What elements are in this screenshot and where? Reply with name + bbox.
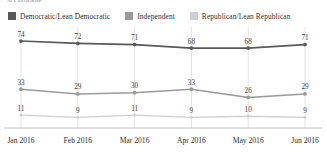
legend-label-independent: Independent bbox=[137, 12, 175, 21]
data-point[interactable] bbox=[246, 96, 250, 100]
legend-swatch-independent bbox=[125, 12, 133, 20]
data-point[interactable] bbox=[133, 91, 137, 95]
chart-title-strip: % Favorable bbox=[0, 0, 327, 7]
data-point[interactable] bbox=[303, 92, 307, 96]
data-point[interactable] bbox=[20, 114, 23, 117]
series-line-2 bbox=[21, 115, 305, 117]
data-label: 30 bbox=[131, 82, 139, 90]
x-axis-tick-label: May 2016 bbox=[233, 136, 264, 145]
series-line-1 bbox=[21, 89, 305, 97]
data-label: 11 bbox=[131, 105, 138, 113]
data-label: 10 bbox=[245, 106, 253, 114]
line-chart-svg: 747271686871332930332629119119109 bbox=[0, 24, 327, 134]
series-points-group bbox=[19, 39, 307, 119]
x-axis-tick-label: Jan 2016 bbox=[7, 136, 34, 145]
data-point[interactable] bbox=[190, 46, 194, 50]
data-label: 68 bbox=[188, 38, 196, 46]
data-label: 68 bbox=[245, 38, 253, 46]
data-label: 29 bbox=[74, 83, 82, 91]
data-point[interactable] bbox=[19, 87, 23, 91]
data-label: 33 bbox=[17, 79, 25, 87]
data-label: 9 bbox=[190, 107, 194, 115]
data-point[interactable] bbox=[190, 116, 193, 119]
data-point[interactable] bbox=[304, 116, 307, 119]
legend-label-republican: Republican/Lean Republican bbox=[202, 12, 291, 21]
data-point[interactable] bbox=[303, 43, 307, 47]
x-axis-tick-label: Mar 2016 bbox=[120, 136, 150, 145]
data-label: 71 bbox=[301, 34, 309, 42]
x-axis-tick-label: Feb 2016 bbox=[64, 136, 92, 145]
legend-item-republican[interactable]: Republican/Lean Republican bbox=[190, 12, 291, 21]
legend-swatch-republican bbox=[190, 12, 198, 20]
legend-swatch-democratic bbox=[8, 12, 16, 20]
series-line-0 bbox=[21, 41, 305, 48]
data-point[interactable] bbox=[247, 115, 250, 118]
data-point[interactable] bbox=[246, 46, 250, 50]
data-point[interactable] bbox=[133, 114, 136, 117]
chart-legend: Democratic/Lean Democratic Independent R… bbox=[0, 9, 327, 23]
chart-plot-area: 747271686871332930332629119119109 bbox=[0, 24, 327, 134]
data-point[interactable] bbox=[76, 92, 80, 96]
x-axis-labels: Jan 2016Feb 2016Mar 2016Apr 2016May 2016… bbox=[0, 136, 327, 150]
x-axis-tick-label: Jun 2016 bbox=[291, 136, 319, 145]
data-label: 11 bbox=[18, 105, 25, 113]
data-point[interactable] bbox=[190, 87, 194, 91]
chart-title: % Favorable bbox=[6, 0, 42, 4]
legend-item-democratic[interactable]: Democratic/Lean Democratic bbox=[8, 12, 110, 21]
data-point[interactable] bbox=[76, 116, 79, 119]
data-label: 71 bbox=[131, 34, 139, 42]
series-lines-group bbox=[21, 41, 305, 117]
data-label: 74 bbox=[17, 31, 25, 39]
data-label: 9 bbox=[76, 107, 80, 115]
data-label: 72 bbox=[74, 33, 82, 41]
data-point[interactable] bbox=[19, 39, 23, 43]
data-label: 33 bbox=[188, 79, 196, 87]
data-point[interactable] bbox=[76, 42, 80, 46]
data-label: 26 bbox=[245, 87, 253, 95]
data-label: 9 bbox=[303, 107, 307, 115]
legend-item-independent[interactable]: Independent bbox=[125, 12, 175, 21]
data-point[interactable] bbox=[133, 43, 137, 47]
data-label: 29 bbox=[301, 83, 309, 91]
legend-label-democratic: Democratic/Lean Democratic bbox=[20, 12, 110, 21]
x-axis-tick-label: Apr 2016 bbox=[177, 136, 206, 145]
